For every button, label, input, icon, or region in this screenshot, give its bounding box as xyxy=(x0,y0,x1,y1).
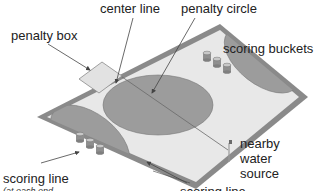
penalty-box-arrow xyxy=(48,44,90,70)
label-center-line: center line xyxy=(100,2,160,16)
label-scoring-buckets: scoring buckets xyxy=(223,42,313,56)
label-penalty-circle: penalty circle xyxy=(181,2,257,16)
label-nearby-water-source-1: nearby xyxy=(240,137,280,151)
scoring-line-left-arrow xyxy=(41,152,79,163)
label-scoring-line-note: (at each end xyxy=(3,186,53,191)
label-nearby-water-source-2: water xyxy=(240,152,272,166)
label-penalty-box: penalty box xyxy=(11,29,78,43)
label-nearby-water-source-3: source xyxy=(240,167,279,181)
penalty-circle xyxy=(103,75,213,135)
label-scoring-line-left: scoring line xyxy=(3,172,69,186)
label-scoring-line-bottom: scoring line xyxy=(180,185,246,191)
